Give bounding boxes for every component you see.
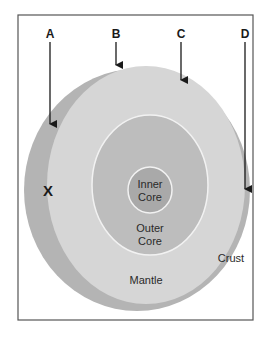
inner-core-label-line1: Inner — [137, 178, 162, 190]
mantle-label: Mantle — [129, 274, 162, 286]
inner-core-layer — [128, 167, 172, 213]
x-marker: X — [43, 182, 53, 199]
earth-layers-diagram: A B C D X Inner Core Outer Core Mantle C… — [0, 0, 264, 337]
outer-core-label-line2: Core — [138, 235, 162, 247]
outer-core-label-line1: Outer — [136, 222, 164, 234]
pointer-label-b: B — [112, 27, 121, 41]
crust-label: Crust — [218, 252, 244, 264]
pointer-label-a: A — [46, 27, 55, 41]
inner-core-label-line2: Core — [138, 191, 162, 203]
pointer-label-d: D — [241, 27, 250, 41]
pointer-label-c: C — [177, 27, 186, 41]
